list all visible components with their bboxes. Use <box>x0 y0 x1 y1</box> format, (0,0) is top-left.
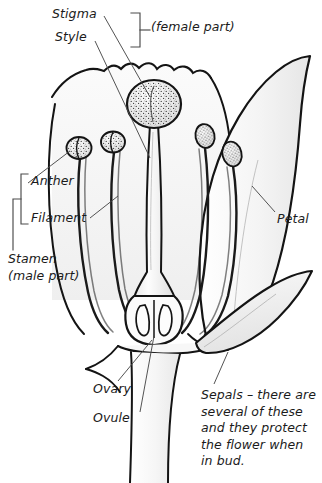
ovule-left <box>136 305 149 336</box>
label-male-part: (male part) <box>8 270 79 283</box>
label-stamen: Stamen <box>8 253 57 266</box>
anther-filament-bracket <box>21 174 28 224</box>
anther-left-inner <box>101 132 125 154</box>
label-filament: Filament <box>31 212 86 225</box>
stigma <box>127 80 181 128</box>
label-stigma: Stigma <box>52 8 97 21</box>
label-sepals-note: Sepals – there are several of these and … <box>201 387 317 470</box>
stamen-bracket <box>13 199 21 250</box>
ovule-right <box>159 305 172 336</box>
label-female-part: (female part) <box>151 21 235 34</box>
label-petal: Petal <box>277 213 309 226</box>
label-ovule: Ovule <box>93 412 130 425</box>
leader-sepals <box>214 352 228 384</box>
label-anther: Anther <box>31 175 74 188</box>
label-ovary: Ovary <box>93 383 131 396</box>
female-part-bracket <box>131 13 150 47</box>
anther-left-outer <box>67 137 92 159</box>
label-style: Style <box>55 31 87 44</box>
flower-diagram-page: Stigma Style (female part) Anther Filame… <box>0 0 322 483</box>
